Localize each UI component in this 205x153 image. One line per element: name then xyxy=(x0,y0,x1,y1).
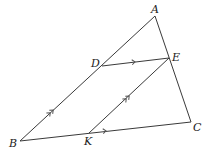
segment-AC xyxy=(155,16,191,122)
label-K: K xyxy=(83,135,93,148)
single-arrow-marker-BK xyxy=(103,128,107,133)
segment-AB xyxy=(20,16,155,141)
label-B: B xyxy=(8,137,17,150)
label-E: E xyxy=(171,51,180,64)
geometry-diagram: A B C D E K xyxy=(0,0,205,153)
label-C: C xyxy=(193,121,202,134)
label-A: A xyxy=(150,3,159,16)
label-D: D xyxy=(90,57,100,70)
